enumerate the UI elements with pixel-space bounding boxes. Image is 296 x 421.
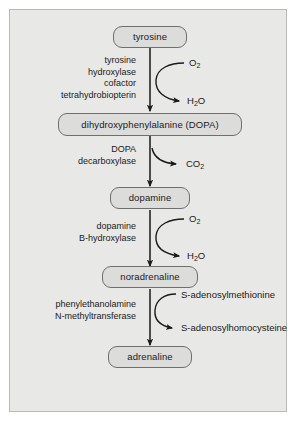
enzyme-label-step-3: dopamine B-hydroxylase — [18, 221, 136, 244]
substrate-o2-step-3: O2 — [189, 214, 200, 224]
substrate-o2-step-1: O2 — [189, 58, 200, 68]
enzyme-line: decarboxylase — [18, 156, 136, 168]
enzyme-line: DOPA — [18, 144, 136, 156]
node-tyrosine[interactable]: tyrosine — [113, 26, 187, 48]
enzyme-line: hydroxylase — [18, 67, 136, 79]
node-dopa[interactable]: dihydroxyphenylalanine (DOPA) — [58, 113, 242, 136]
enzyme-label-step-4: phenylethanolamine N-methyltransferase — [14, 299, 136, 322]
product-h2o-step-1: H2O — [187, 96, 205, 106]
enzyme-line: tetrahydrobiopterin — [18, 90, 136, 102]
pathway-diagram-page: tyrosine dihydroxyphenylalanine (DOPA) d… — [0, 0, 296, 421]
enzyme-label-step-2: DOPA decarboxylase — [18, 144, 136, 167]
curve-co2-out-step-2 — [152, 148, 176, 164]
enzyme-line: tyrosine — [18, 55, 136, 67]
node-noradrenaline[interactable]: noradrenaline — [102, 266, 198, 288]
curve-o2-into-step-1 — [156, 63, 184, 80]
node-adrenaline[interactable]: adrenaline — [108, 346, 192, 368]
curve-sam-into-step-4 — [155, 294, 176, 310]
enzyme-line: cofactor — [18, 78, 136, 90]
enzyme-line: N-methyltransferase — [14, 311, 136, 323]
product-h2o-step-3: H2O — [187, 251, 205, 261]
product-sah-step-4: S-adenosylhomocysteine — [181, 323, 287, 333]
substrate-sam-step-4: S-adenosylmethionine — [181, 290, 275, 300]
enzyme-line: dopamine — [18, 221, 136, 233]
curve-sah-out-step-4 — [155, 310, 172, 328]
node-dopamine[interactable]: dopamine — [110, 187, 190, 209]
product-co2-step-2: CO2 — [186, 159, 204, 169]
enzyme-line: B-hydroxylase — [18, 233, 136, 245]
curve-o2-into-step-3 — [156, 219, 184, 236]
enzyme-line: phenylethanolamine — [14, 299, 136, 311]
curve-h2o-out-step-3 — [156, 236, 179, 256]
curve-h2o-out-step-1 — [156, 80, 179, 101]
enzyme-label-step-1: tyrosine hydroxylase cofactor tetrahydro… — [18, 55, 136, 101]
